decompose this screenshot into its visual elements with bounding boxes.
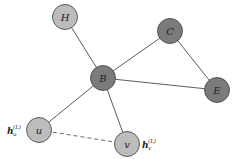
node-v: v [115,132,140,157]
edge-B-E [103,78,217,90]
edges-layer [39,17,217,144]
node-C: C [158,19,183,44]
embedding-superscript: (L) [148,138,156,144]
node-label-B: B [98,73,106,84]
node-label-H: H [60,12,70,23]
edge-u-v [39,130,127,144]
embedding-superscript: (L) [13,124,21,130]
node-H: H [53,5,78,30]
embedding-subscript: u [13,131,17,137]
node-B: B [91,66,116,91]
node-label-u: u [36,125,42,136]
node-u: u [27,118,52,143]
embedding-label-v: h(L)v [142,138,156,151]
node-label-C: C [166,26,174,37]
node-E: E [205,78,230,103]
node-label-v: v [124,139,130,150]
graph-diagram: HCBEuv h(L)uh(L)v [0,0,235,159]
embedding-subscript: v [148,145,152,151]
node-label-E: E [212,85,221,96]
embedding-label-u: h(L)u [7,124,21,137]
